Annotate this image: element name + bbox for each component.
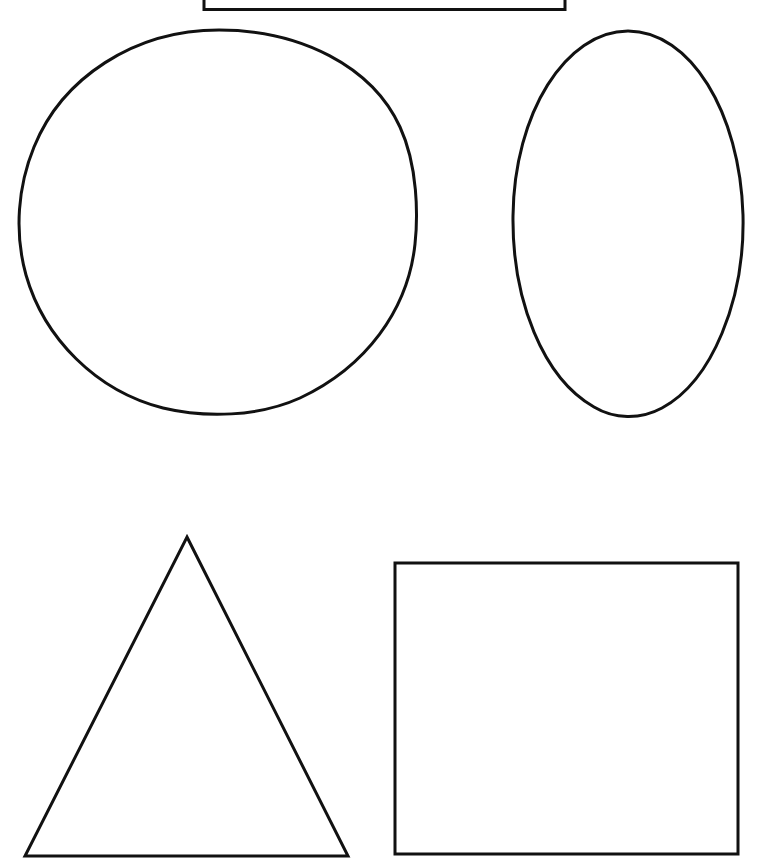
shapes-canvas: [0, 0, 760, 861]
shapes-page: Basic Shapes Outline Sheet Rectangle Cir…: [0, 0, 760, 861]
page-background: [0, 0, 760, 861]
